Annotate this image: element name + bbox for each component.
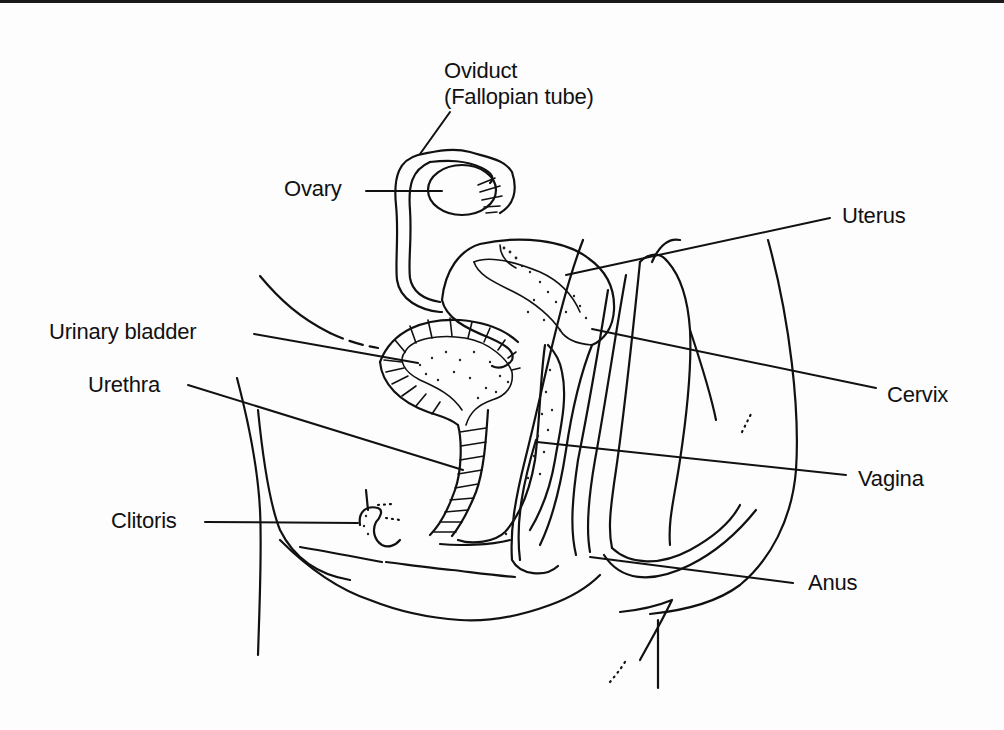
label-cervix: Cervix bbox=[887, 382, 948, 408]
leader-urinary-bladder bbox=[254, 334, 418, 363]
label-urinary-bladder: Urinary bladder bbox=[49, 319, 196, 345]
leader-cervix bbox=[592, 329, 876, 388]
leader-uterus bbox=[566, 218, 830, 275]
body-contour-back bbox=[610, 240, 797, 688]
leader-urethra bbox=[188, 385, 463, 470]
leader-oviduct bbox=[420, 112, 450, 154]
urethra-shape bbox=[430, 410, 488, 536]
clitoris-shape bbox=[360, 490, 400, 546]
uterus-shape bbox=[442, 240, 614, 368]
diagram-page: Oviduct (Fallopian tube) Ovary Uterus Ur… bbox=[0, 0, 1004, 730]
label-anus: Anus bbox=[808, 570, 857, 596]
label-clitoris: Clitoris bbox=[111, 508, 177, 534]
label-ovary: Ovary bbox=[284, 176, 342, 202]
urinary-bladder-shape bbox=[380, 318, 520, 425]
rectum-shape bbox=[572, 240, 756, 578]
label-oviduct: Oviduct (Fallopian tube) bbox=[444, 58, 594, 110]
label-uterus: Uterus bbox=[842, 203, 906, 229]
oviduct-ovary-shape bbox=[395, 150, 514, 312]
label-oviduct-line1: Oviduct bbox=[444, 58, 594, 84]
label-vagina: Vagina bbox=[858, 466, 924, 492]
label-urethra: Urethra bbox=[88, 372, 160, 398]
leader-vagina bbox=[537, 442, 846, 475]
label-oviduct-line2: (Fallopian tube) bbox=[444, 84, 594, 110]
body-contour-front bbox=[237, 378, 600, 655]
leader-clitoris bbox=[205, 522, 358, 523]
